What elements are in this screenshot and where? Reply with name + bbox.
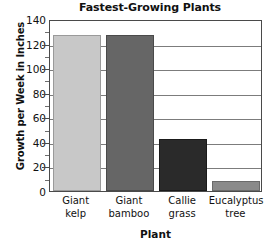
bar [53,35,101,191]
x-category-label-line: grass [156,208,209,221]
y-tick-mark-major [42,94,49,95]
bar-chart: Fastest-Growing Plants Growth per Week i… [0,0,272,252]
x-category-label-line: Giant [102,195,155,208]
x-category-label-line: Callie [156,195,209,208]
y-tick-label: 140 [16,15,46,26]
y-tick-mark-major [42,118,49,119]
x-category-label-line: tree [209,208,262,221]
x-category-label-line: Eucalyptus [209,195,262,208]
y-tick-mark-major [42,45,49,46]
x-category-label: Eucalyptustree [209,195,262,220]
y-axis-tick-labels: 020406080100120140 [16,14,46,198]
x-category-label-line: kelp [49,208,102,221]
x-category-label: Giantkelp [49,195,102,220]
x-category-label: Giantbamboo [102,195,155,220]
bar [159,139,207,191]
x-axis-label: Plant [49,228,262,240]
y-tick-mark-major [42,167,49,168]
x-axis-category-labels: GiantkelpGiantbambooCalliegrassEucalyptu… [49,195,262,227]
bar [212,181,260,191]
y-tick-mark-major [42,143,49,144]
x-category-label-line: bamboo [102,208,155,221]
bars-layer [50,21,261,191]
y-tick-mark-major [42,69,49,70]
x-category-label-line: Giant [49,195,102,208]
bar [106,35,154,191]
plot-area [49,20,262,192]
y-tick-label: 0 [16,187,46,198]
chart-title: Fastest-Growing Plants [30,1,270,14]
x-category-label: Calliegrass [156,195,209,220]
